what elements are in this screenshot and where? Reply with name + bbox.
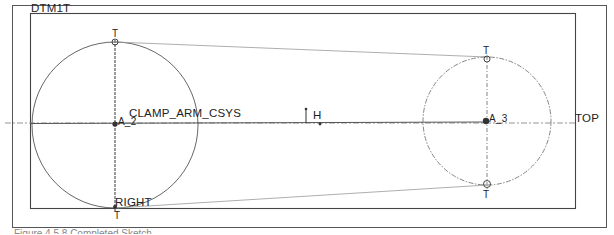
tangent-constraint-top-left: T [112,29,118,39]
datum-label-top[interactable]: TOP [575,113,599,125]
horizontal-constraint-dot [305,108,308,111]
tangent-constraint-bottom-right: T [483,190,489,200]
top-tangent-line[interactable] [115,42,487,57]
left-center-point[interactable] [112,121,117,126]
tangent-constraint-bottom-left: T [114,211,120,221]
datum-label-right[interactable]: RIGHT [115,197,152,209]
datum-label-dtm1t[interactable]: DTM1T [31,3,70,15]
bottom-tangent-line[interactable] [115,185,487,208]
midpoint-dot [319,123,322,126]
csys-label[interactable]: CLAMP_ARM_CSYS [129,108,241,120]
axis-label-a3[interactable]: A_3 [489,114,507,124]
tangent-constraint-top-right: T [483,46,489,56]
horizontal-constraint-label: H [313,110,322,122]
sketch-canvas[interactable] [0,0,614,235]
outer-frame [13,6,607,228]
